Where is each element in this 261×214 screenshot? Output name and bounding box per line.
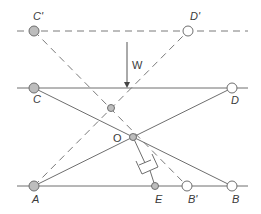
pivot-b [227,181,237,191]
label-b-prime: B' [188,193,198,205]
pivot-c-prime [29,26,39,36]
label-o: O [113,132,122,144]
pivot-b-prime [182,181,192,191]
label-d-prime: D' [190,10,201,22]
arrow-head-icon [124,82,130,88]
label-e: E [155,193,163,205]
pivot-o [130,134,137,141]
damper-cylinder [136,154,158,174]
label-w: W [132,59,143,71]
pivot-a [29,181,39,191]
pivot-c [29,83,39,93]
pivots [29,26,237,191]
pivot-d-prime [183,26,193,36]
label-c-prime: C' [33,10,44,22]
pivot-d [227,83,237,93]
mechanism-diagram: C' D' W C D O A E B' B [0,0,261,214]
label-c: C [33,93,41,105]
displaced-configuration [17,31,248,186]
label-a: A [31,193,39,205]
pivot-mid [108,105,115,112]
label-d: D [231,94,239,106]
load-arrow [124,42,130,88]
pivot-e [152,183,159,190]
label-b: B [232,193,239,205]
